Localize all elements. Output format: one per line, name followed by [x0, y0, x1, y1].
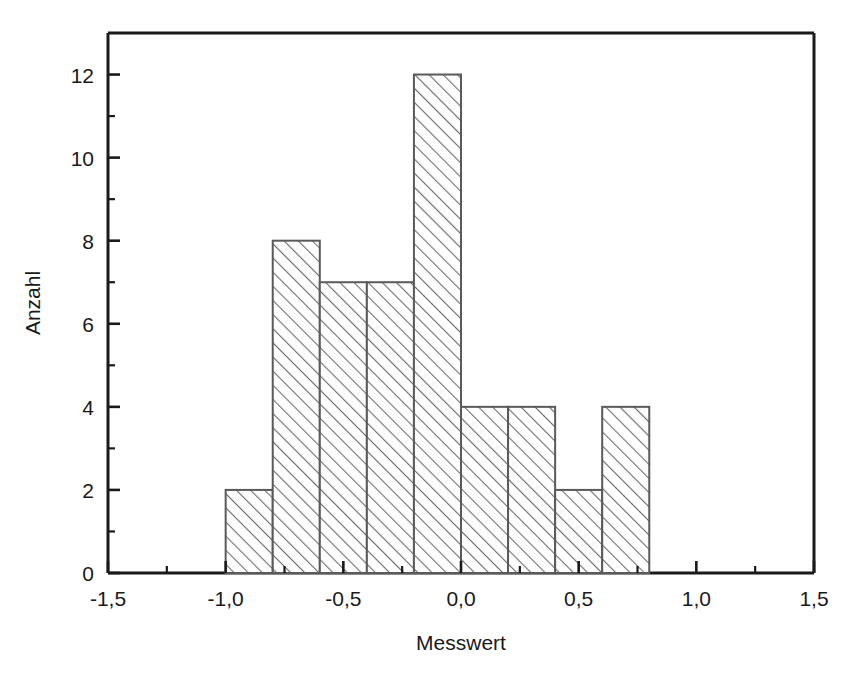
- x-tick-label: 1,5: [799, 587, 828, 610]
- histogram-bar: [555, 490, 602, 573]
- x-tick-label: 0,5: [564, 587, 593, 610]
- y-tick-label: 10: [71, 147, 94, 170]
- histogram-bar: [602, 407, 649, 573]
- histogram-bar: [461, 407, 508, 573]
- x-tick-label: -1,5: [90, 587, 126, 610]
- y-tick-label: 12: [71, 64, 94, 87]
- x-tick-label: 1,0: [682, 587, 711, 610]
- chart-canvas: -1,5-1,0-0,50,00,51,01,5 024681012 Messw…: [0, 0, 864, 674]
- histogram-bar: [367, 282, 414, 573]
- y-axis-title: Anzahl: [21, 271, 44, 335]
- histogram-chart: -1,5-1,0-0,50,00,51,01,5 024681012 Messw…: [0, 0, 864, 674]
- histogram-bar: [320, 282, 367, 573]
- x-tick-label: 0,0: [446, 587, 475, 610]
- x-axis-title: Messwert: [416, 631, 506, 654]
- y-tick-label: 2: [82, 479, 94, 502]
- histogram-bar: [273, 241, 320, 573]
- x-tick-label: -1,0: [208, 587, 244, 610]
- histogram-bar: [414, 75, 461, 573]
- y-tick-label: 8: [82, 230, 94, 253]
- x-tick-label: -0,5: [325, 587, 361, 610]
- histogram-bar: [226, 490, 273, 573]
- y-tick-label: 0: [82, 562, 94, 585]
- y-tick-label: 4: [82, 396, 94, 419]
- y-tick-label: 6: [82, 313, 94, 336]
- histogram-bar: [508, 407, 555, 573]
